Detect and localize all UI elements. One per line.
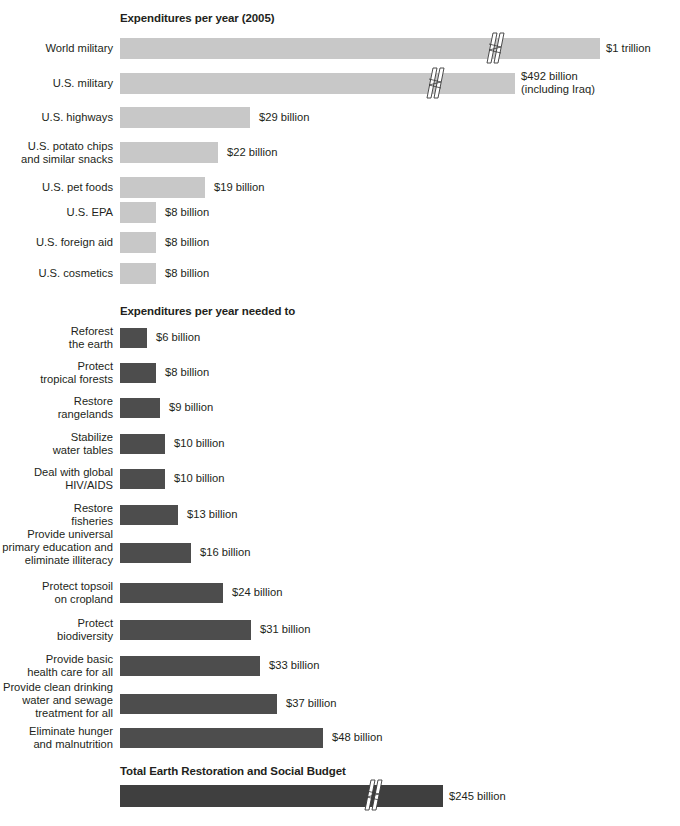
bar-row-stabilize-water-tables: Stabilize water tables $10 billion bbox=[0, 431, 680, 465]
bar-value-deal-with-global-hiv-aids: $10 billion bbox=[174, 472, 224, 485]
bar-row-us-epa: U.S. EPA $8 billion bbox=[0, 200, 680, 234]
bar-label-stabilize-water-tables: Stabilize water tables bbox=[0, 431, 113, 457]
bar-label-deal-with-global-hiv-aids: Deal with global HIV/AIDS bbox=[0, 466, 113, 492]
bar-value-us-military: $492 billion (including Iraq) bbox=[521, 70, 595, 96]
bar-row-us-foreign-aid: U.S. foreign aid $8 billion bbox=[0, 230, 680, 264]
bar-label-reforest-the-earth: Reforest the earth bbox=[0, 325, 113, 351]
bar-value-protect-tropical-forests: $8 billion bbox=[165, 366, 209, 379]
bar-label-us-highways: U.S. highways bbox=[0, 111, 113, 124]
bar-row-us-potato-chips: U.S. potato chips and similar snacks $22… bbox=[0, 140, 680, 174]
bar-label-us-cosmetics: U.S. cosmetics bbox=[0, 267, 113, 280]
bar-label-world-military: World military bbox=[0, 42, 113, 55]
bar-label-provide-universal-primary-education: Provide universal primary education and … bbox=[0, 528, 113, 568]
bar-label-eliminate-hunger: Eliminate hunger and malnutrition bbox=[0, 725, 113, 751]
bar-label-us-military: U.S. military bbox=[0, 77, 113, 90]
bar-us-military bbox=[120, 73, 515, 94]
bar-value-restore-rangelands: $9 billion bbox=[169, 401, 213, 414]
bar-protect-tropical-forests bbox=[120, 363, 156, 383]
bar-value-provide-basic-health-care: $33 billion bbox=[269, 659, 319, 672]
bar-protect-biodiversity bbox=[120, 620, 251, 640]
bar-deal-with-global-hiv-aids bbox=[120, 469, 165, 489]
bar-label-us-potato-chips: U.S. potato chips and similar snacks bbox=[0, 140, 113, 166]
bar-provide-clean-drinking-water bbox=[120, 694, 277, 714]
bar-value-us-cosmetics: $8 billion bbox=[165, 267, 209, 280]
bar-value-stabilize-water-tables: $10 billion bbox=[174, 437, 224, 450]
bar-label-protect-tropical-forests: Protect tropical forests bbox=[0, 360, 113, 386]
bar-us-epa bbox=[120, 202, 156, 223]
bar-row-us-cosmetics: U.S. cosmetics $8 billion bbox=[0, 261, 680, 295]
bar-us-potato-chips bbox=[120, 142, 218, 163]
bar-row-total-budget: $245 billion bbox=[0, 783, 680, 817]
bar-label-us-pet-foods: U.S. pet foods bbox=[0, 181, 113, 194]
bar-value-restore-fisheries: $13 billion bbox=[187, 508, 237, 521]
bar-row-provide-clean-drinking-water: Provide clean drinking water and sewage … bbox=[0, 682, 680, 716]
bar-row-us-military: U.S. military $492 billion (including Ir… bbox=[0, 71, 680, 105]
bar-label-provide-basic-health-care: Provide basic health care for all bbox=[0, 653, 113, 679]
bar-us-cosmetics bbox=[120, 263, 156, 284]
bar-row-deal-with-global-hiv-aids: Deal with global HIV/AIDS $10 billion bbox=[0, 466, 680, 500]
bar-total-budget bbox=[120, 785, 443, 807]
bar-label-us-epa: U.S. EPA bbox=[0, 206, 113, 219]
bar-stabilize-water-tables bbox=[120, 434, 165, 454]
bar-provide-universal-primary-education bbox=[120, 543, 191, 563]
bar-row-protect-biodiversity: Protect biodiversity $31 billion bbox=[0, 617, 680, 651]
bar-row-restore-rangelands: Restore rangelands $9 billion bbox=[0, 395, 680, 429]
bar-row-eliminate-hunger: Eliminate hunger and malnutrition $48 bi… bbox=[0, 725, 680, 759]
bar-row-protect-topsoil-on-cropland: Protect topsoil on cropland $24 billion bbox=[0, 580, 680, 614]
bar-value-provide-universal-primary-education: $16 billion bbox=[200, 546, 250, 559]
bar-eliminate-hunger bbox=[120, 728, 323, 748]
bar-value-us-pet-foods: $19 billion bbox=[214, 181, 264, 194]
expenditure-comparison-chart: Expenditures per year (2005) World milit… bbox=[0, 0, 680, 826]
bar-label-provide-clean-drinking-water: Provide clean drinking water and sewage … bbox=[0, 681, 113, 721]
bar-row-reforest-the-earth: Reforest the earth $6 billion bbox=[0, 325, 680, 359]
bar-value-us-epa: $8 billion bbox=[165, 206, 209, 219]
bar-reforest-the-earth bbox=[120, 328, 147, 348]
bar-label-protect-topsoil-on-cropland: Protect topsoil on cropland bbox=[0, 580, 113, 606]
bar-restore-fisheries bbox=[120, 505, 178, 525]
section-header-total-budget: Total Earth Restoration and Social Budge… bbox=[120, 765, 346, 777]
bar-protect-topsoil-on-cropland bbox=[120, 583, 223, 603]
bar-row-provide-universal-primary-education: Provide universal primary education and … bbox=[0, 533, 680, 567]
bar-value-provide-clean-drinking-water: $37 billion bbox=[286, 697, 336, 710]
bar-value-us-potato-chips: $22 billion bbox=[227, 146, 277, 159]
section-header-expenditures: Expenditures per year (2005) bbox=[120, 12, 274, 24]
bar-row-us-highways: U.S. highways $29 billion bbox=[0, 105, 680, 139]
bar-us-pet-foods bbox=[120, 177, 205, 198]
bar-value-us-foreign-aid: $8 billion bbox=[165, 236, 209, 249]
bar-value-protect-topsoil-on-cropland: $24 billion bbox=[232, 586, 282, 599]
bar-row-world-military: World military $1 trillion bbox=[0, 36, 680, 70]
bar-value-eliminate-hunger: $48 billion bbox=[332, 731, 382, 744]
bar-value-us-highways: $29 billion bbox=[259, 111, 309, 124]
bar-provide-basic-health-care bbox=[120, 656, 260, 676]
section-header-needs: Expenditures per year needed to bbox=[120, 305, 295, 317]
bar-us-foreign-aid bbox=[120, 232, 156, 253]
bar-value-world-military: $1 trillion bbox=[606, 42, 651, 55]
bar-label-restore-rangelands: Restore rangelands bbox=[0, 395, 113, 421]
bar-restore-rangelands bbox=[120, 398, 160, 418]
bar-value-reforest-the-earth: $6 billion bbox=[156, 331, 200, 344]
bar-label-restore-fisheries: Restore fisheries bbox=[0, 502, 113, 528]
bar-value-total-budget: $245 billion bbox=[449, 790, 506, 803]
bar-label-protect-biodiversity: Protect biodiversity bbox=[0, 617, 113, 643]
bar-row-protect-tropical-forests: Protect tropical forests $8 billion bbox=[0, 360, 680, 394]
bar-world-military bbox=[120, 38, 600, 59]
bar-value-protect-biodiversity: $31 billion bbox=[260, 623, 310, 636]
bar-label-us-foreign-aid: U.S. foreign aid bbox=[0, 236, 113, 249]
bar-us-highways bbox=[120, 107, 250, 128]
